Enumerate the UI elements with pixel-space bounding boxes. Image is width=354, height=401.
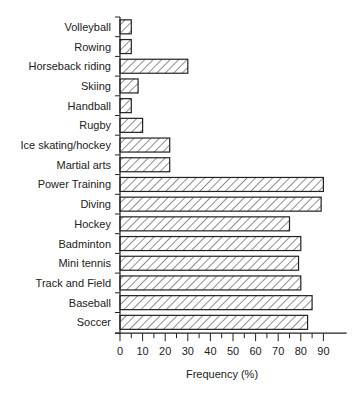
category-label: Badminton	[58, 238, 111, 250]
category-label: Volleyball	[65, 21, 111, 33]
x-tick-label: 40	[204, 345, 216, 357]
bar-soccer	[120, 315, 308, 329]
y-axis: VolleyballRowingHorseback ridingSkiingHa…	[21, 17, 121, 333]
x-tick-label: 20	[159, 345, 171, 357]
bar-track-and-field	[120, 276, 301, 290]
x-tick-label: 0	[117, 345, 123, 357]
bar-power-training	[120, 177, 323, 191]
category-label: Power Training	[38, 178, 111, 190]
bar-martial-arts	[120, 158, 170, 172]
bar-chart: VolleyballRowingHorseback ridingSkiingHa…	[0, 0, 354, 401]
category-label: Track and Field	[36, 277, 111, 289]
bar-badminton	[120, 237, 301, 251]
bar-diving	[120, 197, 321, 211]
bar-rowing	[120, 40, 131, 54]
x-tick-label: 70	[272, 345, 284, 357]
bars-group	[120, 20, 323, 330]
category-label: Ice skating/hockey	[21, 139, 112, 151]
bar-baseball	[120, 296, 312, 310]
category-label: Skiing	[81, 80, 111, 92]
x-tick-label: 60	[249, 345, 261, 357]
x-tick-label: 50	[227, 345, 239, 357]
category-label: Mini tennis	[58, 257, 111, 269]
category-label: Soccer	[77, 316, 112, 328]
x-tick-label: 80	[295, 345, 307, 357]
bar-mini-tennis	[120, 256, 299, 270]
category-label: Horseback riding	[28, 60, 111, 72]
bar-volleyball	[120, 20, 131, 34]
x-tick-label: 30	[182, 345, 194, 357]
x-tick-label: 90	[317, 345, 329, 357]
bar-hockey	[120, 217, 290, 231]
category-label: Rowing	[74, 41, 111, 53]
category-label: Diving	[80, 198, 111, 210]
x-tick-label: 10	[136, 345, 148, 357]
category-label: Martial arts	[57, 159, 112, 171]
x-axis-label: Frequency (%)	[186, 368, 258, 380]
bar-ice-skating-hockey	[120, 138, 170, 152]
x-axis: 0102030405060708090	[115, 333, 347, 357]
bar-handball	[120, 99, 131, 113]
category-label: Handball	[68, 100, 111, 112]
bar-rugby	[120, 118, 143, 132]
category-label: Hockey	[74, 218, 111, 230]
bar-skiing	[120, 79, 138, 93]
category-label: Rugby	[79, 119, 111, 131]
bar-horseback-riding	[120, 59, 188, 73]
category-label: Baseball	[69, 297, 111, 309]
